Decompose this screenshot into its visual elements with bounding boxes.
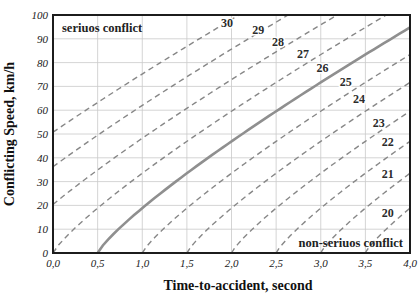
curve-label-28: 28 [272, 35, 284, 49]
severity-curve-28 [53, 15, 337, 204]
x-axis-title: Time-to-accident, second [163, 278, 312, 293]
x-axis-tick-labels: 0,00,51,01,52,02,53,03,54,0 [46, 257, 417, 269]
curve-label-20: 20 [382, 206, 394, 220]
serious-conflict-region-label: seriuos conflict [62, 21, 143, 35]
grid-lines [53, 15, 410, 253]
curve-label-26: 26 [317, 61, 329, 75]
severity-curve-29 [53, 15, 288, 167]
curve-label-30: 30 [221, 16, 233, 30]
y-tick-10: 10 [37, 223, 49, 235]
curve-label-29: 29 [252, 23, 264, 37]
y-tick-40: 40 [37, 152, 49, 164]
severity-curve-24 [187, 82, 410, 253]
y-tick-30: 30 [36, 176, 49, 188]
x-tick-4,0: 4,0 [403, 257, 417, 269]
y-tick-100: 100 [32, 9, 49, 21]
x-tick-2,5: 2,5 [269, 257, 283, 269]
y-tick-90: 90 [37, 33, 49, 45]
y-axis-tick-labels: 0102030405060708090100 [32, 9, 49, 259]
curve-label-24: 24 [353, 92, 365, 106]
x-tick-3,0: 3,0 [313, 257, 328, 269]
x-tick-1,5: 1,5 [180, 257, 194, 269]
x-tick-0,0: 0,0 [46, 257, 60, 269]
curve-label-22: 22 [382, 135, 394, 149]
curve-level-labels: 3029282726252423222120 [221, 16, 394, 220]
x-tick-0,5: 0,5 [91, 257, 105, 269]
chart-canvas: 0,00,51,01,52,02,53,03,54,0 010203040506… [0, 0, 420, 301]
y-tick-0: 0 [43, 247, 49, 259]
y-tick-50: 50 [37, 128, 49, 140]
curve-label-27: 27 [297, 47, 309, 61]
y-axis-title: Conflicting Speed, km/h [2, 62, 17, 207]
non-serious-conflict-region-label: non-seriuos conflict [298, 236, 403, 250]
y-tick-70: 70 [37, 80, 49, 92]
curve-label-21: 21 [382, 167, 394, 181]
y-tick-60: 60 [37, 104, 49, 116]
x-tick-2,0: 2,0 [225, 257, 239, 269]
y-tick-20: 20 [37, 199, 49, 211]
curve-label-25: 25 [340, 75, 352, 89]
x-tick-3,5: 3,5 [358, 257, 373, 269]
severity-curve-26 [98, 27, 410, 253]
y-tick-80: 80 [37, 57, 49, 69]
curve-label-23: 23 [373, 116, 385, 130]
x-tick-1,0: 1,0 [135, 257, 149, 269]
tta-speed-conflict-chart: 0,00,51,01,52,02,53,03,54,0 010203040506… [0, 0, 420, 301]
